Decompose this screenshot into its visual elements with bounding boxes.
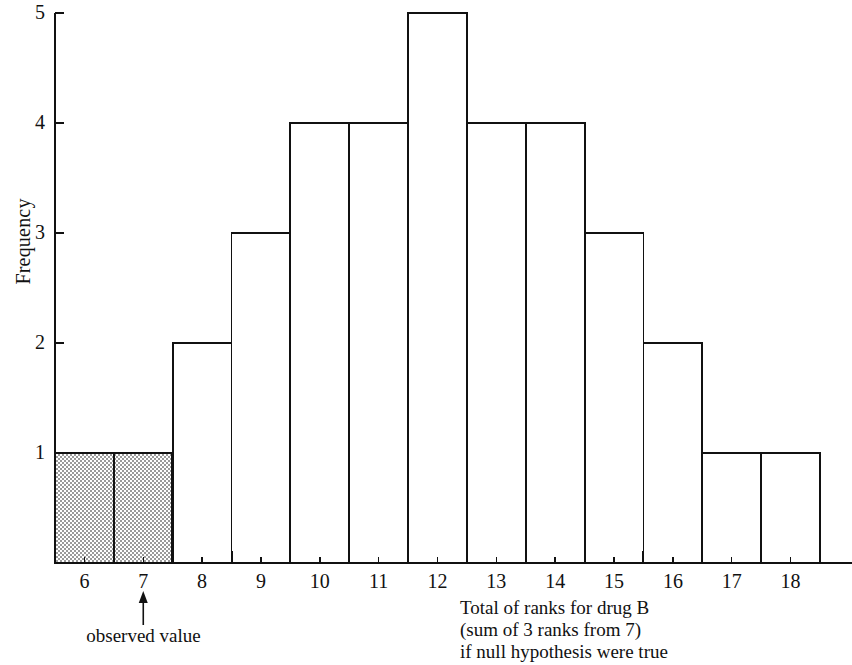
- histogram-bar: [761, 453, 820, 563]
- x-tick-label: 10: [300, 571, 340, 591]
- histogram-bar: [349, 123, 408, 563]
- histogram-bar: [408, 13, 467, 563]
- plot-canvas: [0, 0, 852, 665]
- histogram-bar: [290, 123, 349, 563]
- histogram-figure: Frequency 1 2 3 4 5 67891011121314151617…: [0, 0, 852, 665]
- histogram-bar: [173, 343, 232, 563]
- histogram-bar: [467, 123, 526, 563]
- x-tick-label: 6: [64, 571, 104, 591]
- x-tick-label: 9: [241, 571, 281, 591]
- histogram-bar: [114, 453, 173, 563]
- x-tick-label: 15: [594, 571, 634, 591]
- x-tick-label: 17: [712, 571, 752, 591]
- histogram-bar: [526, 123, 585, 563]
- x-axis-caption: Total of ranks for drug B (sum of 3 rank…: [460, 597, 668, 663]
- x-axis-caption-line-3: if null hypothesis were true: [460, 641, 668, 663]
- x-axis-caption-line-2: (sum of 3 ranks from 7): [460, 619, 668, 641]
- x-axis-caption-line-1: Total of ranks for drug B: [460, 597, 668, 619]
- x-tick-label: 14: [535, 571, 575, 591]
- x-tick-label: 16: [653, 571, 693, 591]
- x-tick-label: 12: [418, 571, 458, 591]
- histogram-bar: [585, 233, 644, 563]
- x-tick-label: 18: [771, 571, 811, 591]
- observed-value-arrow: [139, 591, 148, 625]
- x-tick-label: 11: [359, 571, 399, 591]
- bars-layer: [55, 13, 820, 563]
- histogram-bar: [643, 343, 702, 563]
- histogram-bar: [232, 233, 291, 563]
- observed-arrow-head: [139, 591, 148, 603]
- observed-value-label: observed value: [86, 625, 200, 646]
- x-tick-label: 7: [123, 571, 163, 591]
- x-tick-label: 8: [182, 571, 222, 591]
- histogram-bar: [55, 453, 114, 563]
- x-tick-label: 13: [476, 571, 516, 591]
- histogram-bar: [702, 453, 761, 563]
